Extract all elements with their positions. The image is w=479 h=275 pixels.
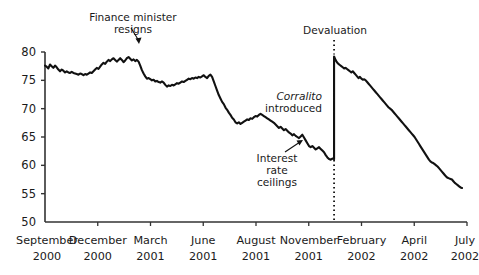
x-tick-label-year: 2001 bbox=[189, 250, 217, 263]
y-tick-label: 50 bbox=[21, 215, 36, 229]
y-tick-label: 55 bbox=[21, 187, 36, 201]
x-tick-label-year: 2001 bbox=[242, 250, 270, 263]
y-tick-label: 75 bbox=[21, 73, 36, 87]
x-tick-label-month: June bbox=[190, 234, 215, 247]
y-tick-label: 70 bbox=[21, 102, 36, 116]
y-tick-label: 60 bbox=[21, 158, 36, 172]
corralito-introduced-line: introduced bbox=[265, 102, 322, 114]
data-series bbox=[45, 57, 462, 188]
y-axis: 50556065707580 bbox=[21, 45, 45, 229]
devaluation-label: Devaluation bbox=[303, 24, 367, 36]
x-tick-label-month: August bbox=[236, 234, 276, 247]
interest-rate-ceilings-line: rate bbox=[266, 164, 288, 176]
x-tick-label-year: 2000 bbox=[84, 250, 112, 263]
x-tick-label-month: February bbox=[337, 234, 387, 247]
x-tick-label-year: 2002 bbox=[347, 250, 375, 263]
x-tick-label-month: March bbox=[133, 234, 167, 247]
interest-rate-arrow-shaft bbox=[285, 142, 300, 152]
x-tick-label-year: 2000 bbox=[33, 250, 61, 263]
x-tick-label-month: July bbox=[454, 234, 475, 247]
annotations: Finance ministerresignsCorralitointroduc… bbox=[89, 11, 322, 188]
interest-rate-arrow-head bbox=[297, 140, 304, 146]
x-tick-label-month: November bbox=[280, 234, 339, 247]
finance-minister-arrow-head bbox=[136, 38, 142, 45]
interest-rate-ceilings-line: Interest bbox=[257, 152, 298, 164]
x-axis: September2000December2000March2001June20… bbox=[16, 222, 479, 263]
corralito-introduced-line: Corralito bbox=[276, 90, 322, 102]
x-tick-label-month: December bbox=[69, 234, 127, 247]
line-chart: 50556065707580 September2000December2000… bbox=[0, 0, 479, 275]
x-tick-label-month: April bbox=[401, 234, 427, 247]
chart-container: 50556065707580 September2000December2000… bbox=[0, 0, 479, 275]
x-tick-label-year: 2001 bbox=[136, 250, 164, 263]
series-line bbox=[45, 57, 462, 188]
interest-rate-ceilings-line: ceilings bbox=[257, 176, 297, 188]
x-tick-label-year: 2001 bbox=[295, 250, 323, 263]
x-tick-label-year: 2002 bbox=[400, 250, 428, 263]
y-tick-label: 80 bbox=[21, 45, 36, 59]
x-tick-label-year: 2002 bbox=[451, 250, 479, 263]
y-tick-label: 65 bbox=[21, 130, 36, 144]
finance-minister-resigns-line: resigns bbox=[114, 23, 152, 35]
finance-minister-resigns-line: Finance minister bbox=[89, 11, 177, 23]
